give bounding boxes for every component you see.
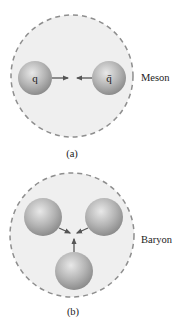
antiquark-label: q̄ (106, 72, 112, 84)
meson-label: Meson (141, 72, 170, 83)
meson-panel: q q̄ Meson (a) (11, 15, 170, 160)
quark-sphere-top-right (85, 198, 123, 236)
quark-sphere-top-left (24, 198, 62, 236)
baryon-panel: Baryon (b) (10, 173, 173, 318)
quark-diagram: q q̄ Meson (a) Baryon (b) (0, 0, 184, 321)
caption-a: (a) (66, 148, 78, 160)
caption-b: (b) (67, 306, 80, 318)
baryon-label: Baryon (141, 234, 173, 245)
quark-label: q (32, 72, 38, 84)
quark-sphere-bottom (55, 252, 93, 290)
